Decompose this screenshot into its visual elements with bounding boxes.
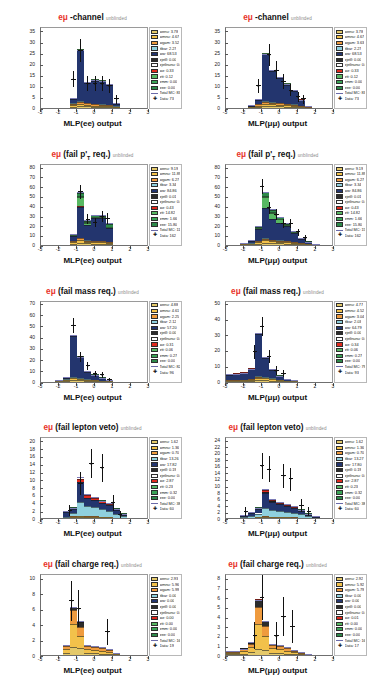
hist-bar-wgam xyxy=(291,105,298,106)
hist-bar-ww xyxy=(240,373,247,379)
hist-bar-wmnu xyxy=(106,652,113,654)
x-tick-label: -1 xyxy=(256,657,266,662)
y-tick-label: 30 xyxy=(198,40,220,45)
x-tick-label: -3 xyxy=(35,657,45,662)
plot-frame xyxy=(225,437,333,519)
y-tick-label: 1 xyxy=(198,644,220,649)
y-tick-label: 4 xyxy=(198,615,220,620)
data-marker-icon: ✚ xyxy=(151,644,158,649)
hist-bar-wenu xyxy=(262,106,269,108)
y-tick xyxy=(225,647,228,648)
legend-label: zjetll: 0.19 xyxy=(160,468,177,472)
hist-bar-ww xyxy=(99,503,106,509)
legend-swatch-zjetlnunu xyxy=(151,200,158,204)
y-tick-label: 2 xyxy=(13,509,35,514)
x-tick-label: -1 xyxy=(256,110,266,115)
hist-bar-wenu xyxy=(262,243,269,245)
total-mc-line xyxy=(291,506,298,507)
y-tick xyxy=(225,217,228,218)
y-tick xyxy=(225,31,228,32)
total-mc-line xyxy=(255,99,262,100)
legend-label: ttbar: 0.00 xyxy=(345,594,362,598)
x-tick-label: -1 xyxy=(71,384,81,389)
hist-bar-ww xyxy=(248,369,255,378)
hist-bar-wenu xyxy=(269,243,276,245)
legend-item-data: ✚Data: 93 xyxy=(336,370,365,376)
y-tick-label: 30 xyxy=(13,346,35,351)
hist-bar-wgam xyxy=(91,647,98,650)
legend-label: zmm: 0.00 xyxy=(345,627,363,631)
plot-frame xyxy=(40,301,148,383)
total-mc-line xyxy=(248,369,255,370)
legend-label: ww: 17.80 xyxy=(345,463,362,467)
hist-bar-wmnu xyxy=(262,240,269,243)
legend-label: ttbar: 2.12 xyxy=(160,320,177,324)
panel-title-text: (fail mass req.) xyxy=(243,287,301,296)
legend-label: wmnu: 1.36 xyxy=(160,446,180,450)
panel-title-channel: eμ xyxy=(43,423,53,432)
legend-label: wgam: 0.70 xyxy=(345,451,365,455)
plot-panel-ee-fail-pt: eμ (fail p'T req.) unblinded010203040506… xyxy=(0,137,185,274)
hist-bar-ttbar xyxy=(276,511,283,517)
hist-bar-wgam xyxy=(91,104,98,105)
y-tick-label: 20 xyxy=(13,224,35,229)
legend-swatch-wenu xyxy=(336,167,343,171)
hist-bar-ww xyxy=(305,242,312,243)
x-tick-label: 3 xyxy=(143,247,153,252)
hist-bar-wgam xyxy=(99,105,106,106)
y-tick-label: 5 xyxy=(198,95,220,100)
legend-swatch-wmnu xyxy=(151,309,158,313)
legend-swatch-wz xyxy=(336,479,343,483)
x-tick-label: -3 xyxy=(35,520,45,525)
y-tick-label: 22 xyxy=(198,445,220,450)
hist-bar-ww xyxy=(269,502,276,511)
unblinded-label: unblinded xyxy=(303,290,324,295)
hist-bar-wenu xyxy=(91,653,98,655)
y-tick xyxy=(225,627,228,628)
y-tick xyxy=(40,488,43,489)
y-tick-label: 30 xyxy=(13,214,35,219)
legend-swatch-wenu xyxy=(336,30,343,34)
legend: wenu: 3.78wmnu: 4.67wgam: 3.63ttbar: 2.2… xyxy=(334,27,367,109)
total-mc-line xyxy=(99,378,106,379)
legend-swatch-ztt xyxy=(151,74,158,78)
legend-label: zjetlnunu: 0.00 xyxy=(160,337,181,341)
legend-label: ztt: 14.82 xyxy=(160,211,176,215)
legend-label: wz: 0.33 xyxy=(160,69,174,73)
hist-bar-wmnu xyxy=(284,651,291,654)
hist-bar-ttbar xyxy=(77,502,84,516)
y-tick xyxy=(40,504,43,505)
hist-bar-wz xyxy=(291,507,298,508)
legend-swatch-wmnu xyxy=(336,446,343,450)
legend-label: zjetll: 0.19 xyxy=(345,468,362,472)
hist-bar-wmnu xyxy=(91,242,98,244)
panel-title-text: (fail p'T req.) xyxy=(248,150,295,159)
y-tick-label: 70 xyxy=(198,175,220,180)
total-mc-line xyxy=(284,379,291,380)
hist-bar-wenu xyxy=(262,517,269,518)
y-tick xyxy=(225,87,228,88)
hist-bar-wenu xyxy=(269,653,276,655)
hist-bar-wenu xyxy=(276,653,283,655)
y-tick-label: 16 xyxy=(13,454,35,459)
legend-swatch-wmnu xyxy=(336,172,343,176)
legend-swatch-zee xyxy=(336,496,343,500)
total-mc-line xyxy=(70,335,77,336)
hist-bar-ww xyxy=(240,516,247,517)
x-axis-title: MLP(μμ) output xyxy=(185,119,370,128)
hist-bar-ww xyxy=(84,225,91,241)
hist-bar-wmnu xyxy=(70,242,77,244)
y-tick xyxy=(40,65,43,66)
x-tick-label: 3 xyxy=(328,520,338,525)
legend-label: wgam: 2.25 xyxy=(160,315,180,319)
total-mc-line xyxy=(63,645,70,646)
y-tick-label: 30 xyxy=(13,40,35,45)
total-mc-line xyxy=(113,653,120,654)
x-tick-label: -1 xyxy=(71,110,81,115)
hist-bar-ttbar xyxy=(84,506,91,517)
hist-bar-wenu xyxy=(70,244,77,245)
hist-bar-wgam xyxy=(240,649,247,651)
total-mc-line xyxy=(84,494,91,495)
x-tick-label: 0 xyxy=(274,657,284,662)
legend-label: wenu: 3.78 xyxy=(345,30,364,34)
